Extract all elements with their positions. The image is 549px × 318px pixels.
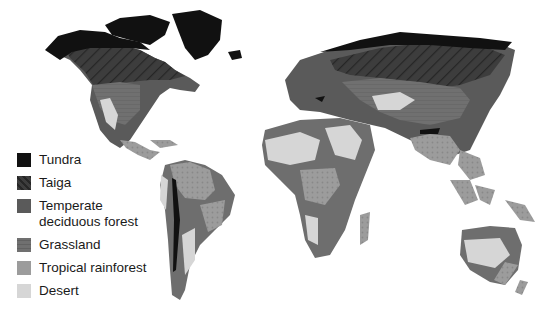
- rainforest-swatch-icon: [17, 261, 31, 275]
- temperate-forest-swatch-icon: [17, 199, 31, 213]
- africa: [262, 118, 375, 258]
- legend-label: Taiga: [39, 175, 71, 191]
- grassland-swatch-icon: [17, 238, 31, 252]
- biome-legend: Tundra Taiga Temperate deciduous forest …: [17, 152, 207, 306]
- legend-label: Tundra: [39, 152, 81, 168]
- legend-item-tundra: Tundra: [17, 152, 207, 168]
- desert-swatch-icon: [17, 284, 31, 298]
- southeast-asia-islands: [450, 180, 535, 222]
- legend-item-temperate-deciduous-forest: Temperate deciduous forest: [17, 198, 207, 230]
- australia: [460, 226, 528, 295]
- legend-item-tropical-rainforest: Tropical rainforest: [17, 260, 207, 276]
- legend-item-taiga: Taiga: [17, 175, 207, 191]
- tundra-swatch-icon: [17, 153, 31, 167]
- legend-label: Desert: [39, 283, 79, 299]
- legend-label: Tropical rainforest: [39, 260, 147, 276]
- taiga-swatch-icon: [17, 176, 31, 190]
- legend-label: Grassland: [39, 237, 101, 253]
- north-america: [45, 10, 242, 160]
- legend-label: Temperate deciduous forest: [39, 198, 138, 230]
- legend-item-grassland: Grassland: [17, 237, 207, 253]
- legend-item-desert: Desert: [17, 283, 207, 299]
